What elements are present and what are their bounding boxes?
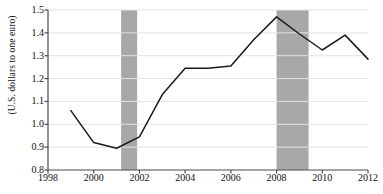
x-axis-tick-label: 2004 [165,173,205,183]
x-axis-tick-label: 2006 [211,173,251,183]
x-axis-tick-label: 2002 [119,173,159,183]
axis-lines [48,10,368,170]
axis-tick-marks [45,10,369,174]
x-axis-tick-label: 2012 [348,173,383,183]
recession-bands [121,10,308,170]
x-axis-tick-label: 2008 [257,173,297,183]
recession-band-2008 [277,10,309,170]
gridlines [48,10,368,147]
x-axis-tick-label: 2010 [302,173,342,183]
x-axis-tick-label: 2000 [74,173,114,183]
recession-band-2001 [121,10,137,170]
x-axis-tick-label: 1998 [28,173,68,183]
data-series-line [71,17,368,148]
